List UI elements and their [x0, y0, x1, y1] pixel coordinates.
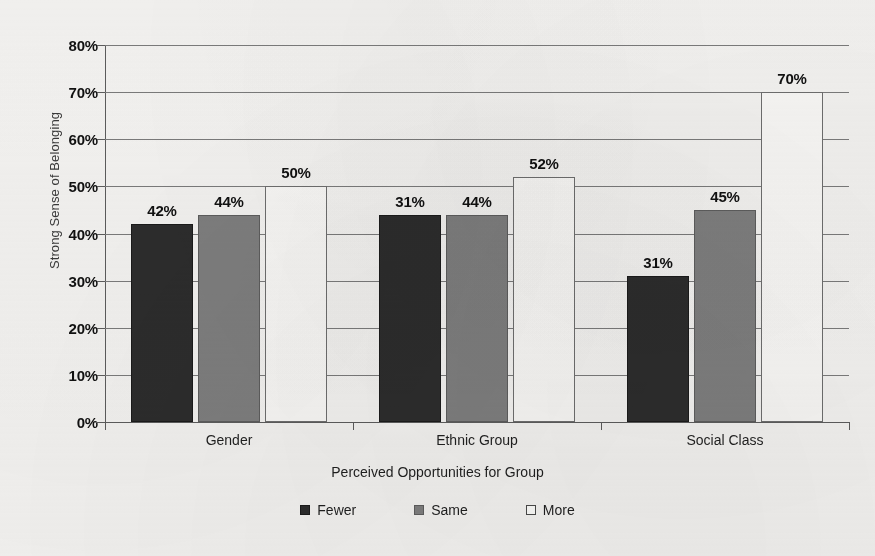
- y-axis-tick-label: 30%: [40, 272, 98, 289]
- legend-swatch-more-icon: [526, 505, 536, 515]
- y-axis-tick-mark: [97, 234, 105, 235]
- bar-social-class-fewer: [627, 276, 689, 422]
- x-axis-tick-mark: [105, 422, 106, 430]
- bar-ethnic-group-more: [513, 177, 575, 422]
- bar-value-label: 44%: [462, 193, 491, 210]
- bar-value-label: 52%: [529, 155, 558, 172]
- y-axis-tick-label: 20%: [40, 319, 98, 336]
- legend-item-label: Same: [431, 502, 468, 518]
- x-axis-category-label: Social Class: [686, 432, 763, 448]
- y-axis-tick-mark: [97, 139, 105, 140]
- legend-swatch-fewer-icon: [300, 505, 310, 515]
- bar-social-class-same: [694, 210, 756, 422]
- x-axis-title: Perceived Opportunities for Group: [0, 464, 875, 480]
- y-axis-tick-label: 40%: [40, 225, 98, 242]
- legend-item-same[interactable]: Same: [414, 502, 468, 518]
- y-axis-tick-mark: [97, 92, 105, 93]
- bar-gender-same: [198, 215, 260, 422]
- x-axis-category-label: Gender: [206, 432, 253, 448]
- x-axis-category-label: Ethnic Group: [436, 432, 518, 448]
- x-axis-tick-mark: [601, 422, 602, 430]
- legend-item-more[interactable]: More: [526, 502, 575, 518]
- y-axis-tick-label: 80%: [40, 37, 98, 54]
- bar-value-label: 50%: [281, 164, 310, 181]
- y-axis-tick-mark: [97, 281, 105, 282]
- x-axis-tick-mark: [353, 422, 354, 430]
- gridline: [105, 45, 849, 46]
- y-axis-tick-label: 60%: [40, 131, 98, 148]
- bar-social-class-more: [761, 92, 823, 422]
- y-axis-tick-label: 10%: [40, 366, 98, 383]
- bar-gender-more: [265, 186, 327, 422]
- bar-chart: Strong Sense of Belonging 80%70%60%50%40…: [0, 0, 875, 556]
- y-axis-tick-mark: [97, 375, 105, 376]
- bar-value-label: 44%: [214, 193, 243, 210]
- legend-item-label: More: [543, 502, 575, 518]
- gridline: [105, 92, 849, 93]
- bar-ethnic-group-same: [446, 215, 508, 422]
- y-axis-tick-label: 50%: [40, 178, 98, 195]
- y-axis-tick-label: 0%: [40, 414, 98, 431]
- plot-area: 42%44%50%31%44%52%31%45%70%: [105, 45, 849, 422]
- bar-gender-fewer: [131, 224, 193, 422]
- x-axis-line: [96, 422, 849, 423]
- bar-value-label: 45%: [710, 188, 739, 205]
- y-axis-tick-mark: [97, 422, 105, 423]
- gridline: [105, 139, 849, 140]
- y-axis-tick-mark: [97, 45, 105, 46]
- y-axis-tick-mark: [97, 328, 105, 329]
- y-axis-tick-label: 70%: [40, 84, 98, 101]
- legend-item-fewer[interactable]: Fewer: [300, 502, 356, 518]
- bar-ethnic-group-fewer: [379, 215, 441, 422]
- legend-item-label: Fewer: [317, 502, 356, 518]
- chart-legend: FewerSameMore: [0, 502, 875, 518]
- bar-value-label: 42%: [147, 202, 176, 219]
- y-axis-tick-mark: [97, 186, 105, 187]
- bar-value-label: 70%: [777, 70, 806, 87]
- legend-swatch-same-icon: [414, 505, 424, 515]
- bar-value-label: 31%: [395, 193, 424, 210]
- bar-value-label: 31%: [643, 254, 672, 271]
- x-axis-tick-mark: [849, 422, 850, 430]
